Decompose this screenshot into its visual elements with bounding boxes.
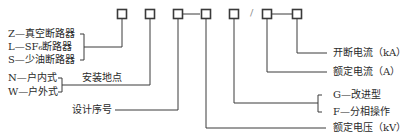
label-improved: G—改进型 xyxy=(333,89,381,101)
label-design-number: 设计序号 xyxy=(72,104,112,116)
code-box-4 xyxy=(202,10,211,19)
label-type-z: Z—真空断路器 xyxy=(8,28,75,40)
label-rated-current: 额定电流（A） xyxy=(333,66,400,78)
label-type-l: L—SF₆断路器 xyxy=(8,41,72,53)
label-rated-voltage: 额定电压（kV） xyxy=(333,122,403,134)
label-indoor: N—户内式 xyxy=(8,72,57,84)
code-box-6 xyxy=(263,10,272,19)
label-breaking-current: 开断电流（kA） xyxy=(333,47,403,59)
label-phase-operation: F—分相操作 xyxy=(333,106,390,118)
code-box-5 xyxy=(230,10,239,19)
separator-slash: / xyxy=(250,7,253,18)
code-box-1 xyxy=(118,10,127,19)
label-outdoor: W—户外式 xyxy=(8,86,58,98)
label-install-location: 安装地点 xyxy=(82,72,122,84)
code-box-3 xyxy=(174,10,183,19)
label-type-s: S—少油断路器 xyxy=(8,54,75,66)
code-box-7 xyxy=(293,10,302,19)
code-box-2 xyxy=(146,10,155,19)
